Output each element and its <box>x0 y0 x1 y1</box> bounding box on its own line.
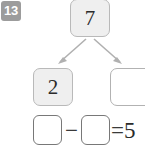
arrow-head-left <box>58 57 67 64</box>
equation-operand-2-input[interactable] <box>81 115 110 145</box>
equation-row: − = 5 <box>33 114 135 146</box>
number-bond-part-right-box[interactable] <box>110 68 145 106</box>
minus-sign: − <box>62 119 81 142</box>
problem-number-badge: 13 <box>1 1 21 21</box>
number-bond-whole-box[interactable]: 7 <box>70 0 110 37</box>
arrow-line-left <box>60 39 86 62</box>
number-bond-part-left-box[interactable]: 2 <box>33 68 73 106</box>
worksheet-problem: 13 7 2 − = 5 <box>0 0 145 147</box>
equation-result: 5 <box>124 119 136 142</box>
equals-sign: = <box>110 119 124 142</box>
arrow-line-right <box>94 39 120 62</box>
arrow-head-right <box>113 57 122 64</box>
equation-operand-1-input[interactable] <box>33 115 62 145</box>
